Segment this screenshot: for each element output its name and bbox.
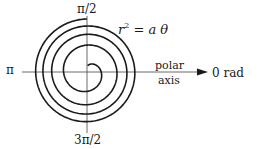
equation-rhs: = a θ [133, 22, 168, 37]
equation-lhs-exponent: 2 [124, 21, 129, 30]
spiral-equation: r2 = a θ [118, 22, 168, 36]
polar-axis-label-line1: polar [155, 60, 184, 71]
label-zero-rad: 0 rad [212, 67, 244, 79]
polar-axis-label-line2: axis [158, 75, 180, 86]
label-pi: π [6, 64, 14, 76]
label-3pi-over-2: 3π/2 [74, 134, 101, 146]
arrow-head-icon [197, 69, 208, 76]
label-pi-over-2: π/2 [77, 3, 97, 15]
